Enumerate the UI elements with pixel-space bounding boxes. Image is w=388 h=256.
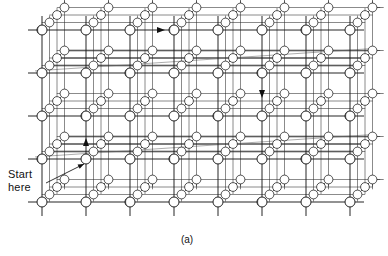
lattice-node xyxy=(273,183,282,192)
lattice-node xyxy=(301,68,311,78)
figure-caption: (a) xyxy=(181,234,193,245)
node-circle xyxy=(280,89,289,98)
node-circle xyxy=(324,132,333,141)
lattice-node xyxy=(368,46,377,55)
lattice-node xyxy=(301,197,311,207)
node-circle xyxy=(213,154,223,164)
lattice-node xyxy=(89,18,98,27)
lattice-node xyxy=(148,175,157,184)
lattice-node xyxy=(169,68,179,78)
lattice-node xyxy=(229,11,238,20)
lattice-figure: Starthere(a) xyxy=(0,0,388,256)
node-circle xyxy=(309,104,318,113)
lattice-node xyxy=(53,183,62,192)
lattice-node xyxy=(236,3,245,12)
node-circle xyxy=(273,11,282,20)
lattice-node xyxy=(236,132,245,141)
lattice-node xyxy=(192,46,201,55)
node-circle xyxy=(301,111,311,121)
node-circle xyxy=(141,54,150,63)
lattice-node xyxy=(280,46,289,55)
node-circle xyxy=(81,154,91,164)
lattice-node xyxy=(169,154,179,164)
node-circle xyxy=(177,18,186,27)
node-circle xyxy=(141,183,150,192)
node-circle xyxy=(324,3,333,12)
lattice-node xyxy=(185,97,194,106)
lattice-node xyxy=(81,68,91,78)
lattice-node xyxy=(60,89,69,98)
lattice-node xyxy=(45,61,54,70)
node-circle xyxy=(104,175,113,184)
node-circle xyxy=(273,54,282,63)
lattice-node xyxy=(125,197,135,207)
lattice-node xyxy=(265,61,274,70)
lattice-node xyxy=(177,190,186,199)
lattice-node xyxy=(368,175,377,184)
node-circle xyxy=(141,140,150,149)
lattice-node xyxy=(229,140,238,149)
lattice-node xyxy=(125,111,135,121)
node-circle xyxy=(353,61,362,70)
node-circle xyxy=(265,190,274,199)
lattice-node xyxy=(273,54,282,63)
node-circle xyxy=(60,3,69,12)
lattice-node xyxy=(141,140,150,149)
node-circle xyxy=(361,140,370,149)
lattice-node xyxy=(53,97,62,106)
lattice-node xyxy=(89,147,98,156)
node-circle xyxy=(37,68,47,78)
node-circle xyxy=(133,61,142,70)
lattice-node xyxy=(192,3,201,12)
node-circle xyxy=(169,197,179,207)
node-circle xyxy=(236,89,245,98)
lattice-node xyxy=(309,104,318,113)
lattice-node xyxy=(60,132,69,141)
lattice-node xyxy=(257,25,267,35)
node-circle xyxy=(221,18,230,27)
lattice-node xyxy=(177,104,186,113)
node-circle xyxy=(192,132,201,141)
lattice-node xyxy=(280,89,289,98)
lattice-node xyxy=(133,18,142,27)
lattice-node xyxy=(309,18,318,27)
node-circle xyxy=(89,190,98,199)
figure-background xyxy=(0,0,388,256)
lattice-node xyxy=(345,68,355,78)
node-circle xyxy=(280,46,289,55)
node-circle xyxy=(236,46,245,55)
lattice-node xyxy=(104,175,113,184)
lattice-node xyxy=(361,54,370,63)
lattice-node xyxy=(169,197,179,207)
lattice-node xyxy=(361,183,370,192)
lattice-node xyxy=(148,89,157,98)
lattice-node xyxy=(133,104,142,113)
lattice-node xyxy=(192,175,201,184)
node-circle xyxy=(60,175,69,184)
node-circle xyxy=(229,11,238,20)
node-circle xyxy=(89,61,98,70)
lattice-node xyxy=(324,46,333,55)
lattice-node xyxy=(361,11,370,20)
node-circle xyxy=(280,175,289,184)
node-circle xyxy=(133,190,142,199)
lattice-node xyxy=(45,104,54,113)
lattice-node xyxy=(97,11,106,20)
node-circle xyxy=(317,140,326,149)
node-circle xyxy=(97,97,106,106)
node-circle xyxy=(345,68,355,78)
lattice-node xyxy=(221,104,230,113)
node-circle xyxy=(60,89,69,98)
lattice-node xyxy=(133,61,142,70)
lattice-node xyxy=(104,132,113,141)
node-circle xyxy=(236,132,245,141)
node-circle xyxy=(257,111,267,121)
lattice-node xyxy=(368,89,377,98)
lattice-node xyxy=(97,140,106,149)
node-circle xyxy=(368,46,377,55)
lattice-node xyxy=(257,68,267,78)
start-here-label-line1: Start xyxy=(8,168,32,180)
lattice-node xyxy=(133,147,142,156)
node-circle xyxy=(309,147,318,156)
lattice-node xyxy=(221,190,230,199)
